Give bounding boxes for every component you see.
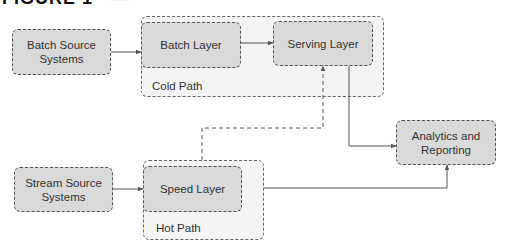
speed-layer-node: Speed Layer	[143, 166, 242, 212]
batch-layer-label: Batch Layer	[160, 38, 221, 52]
batch-source-label-1: Batch Source	[27, 38, 96, 52]
analytics-label-2: Reporting	[412, 143, 480, 157]
edge-hot-path-to-serving-dashed	[202, 66, 323, 160]
analytics-reporting-node: Analytics and Reporting	[396, 120, 496, 165]
speed-layer-label: Speed Layer	[160, 182, 225, 196]
analytics-label-1: Analytics and	[412, 129, 480, 143]
edge-serving-to-analytics	[349, 66, 396, 146]
stream-source-systems-node: Stream Source Systems	[14, 167, 113, 212]
batch-layer-node: Batch Layer	[141, 22, 241, 68]
serving-layer-node: Serving Layer	[273, 21, 373, 66]
stream-source-label-2: Systems	[25, 190, 102, 204]
edge-hot-path-to-analytics	[264, 165, 447, 188]
serving-layer-label: Serving Layer	[288, 37, 359, 51]
stream-source-label-1: Stream Source	[25, 176, 102, 190]
batch-source-systems-node: Batch Source Systems	[12, 29, 111, 75]
batch-source-label-2: Systems	[27, 52, 96, 66]
